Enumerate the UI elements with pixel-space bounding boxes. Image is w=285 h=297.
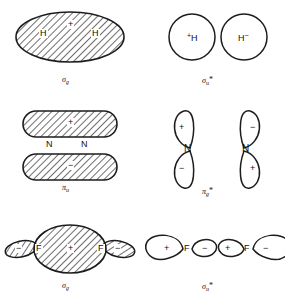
sign-plus-center: + — [67, 244, 74, 253]
sign-minus-right-top: − — [250, 123, 255, 132]
sign-plus-left-top: + — [179, 123, 184, 132]
atom-label-n-right: N — [81, 140, 88, 149]
atom-label-h-left: H — [191, 33, 198, 43]
atom-label-h-right: H — [91, 29, 100, 38]
sigma-u-star-h2-orbital-shape — [143, 0, 285, 75]
subscript-u: u — [66, 187, 69, 193]
sign-minus-left-lobe: − — [15, 244, 22, 253]
panel-sigma-u-star-h2: +H H− σu* — [143, 0, 285, 99]
sigma-g-h2-orbital-shape — [0, 0, 143, 75]
mo-diagram-figure: H H + σg +H H− σu* + − N N πu — [0, 0, 285, 297]
mo-label-sigma-g-h2: σg — [62, 76, 69, 85]
atom-group-h-cation: +H — [187, 32, 198, 43]
sign-minus-left-bottom: − — [179, 164, 184, 173]
star-glyph: * — [209, 75, 213, 84]
sign-plus-center: + — [67, 20, 74, 29]
mo-label-pi-g-star-n2: πg* — [202, 187, 213, 197]
sigma-g-f2-orbital-shape — [0, 198, 143, 278]
panel-sigma-g-f2: − − + F F σg — [0, 198, 143, 297]
subscript-g: g — [66, 285, 69, 291]
sign-minus-left-atom: − — [202, 244, 207, 253]
atom-label-n-left: N — [46, 140, 53, 149]
panel-sigma-u-star-f2: + − + − F F σu* — [143, 198, 285, 297]
atom-group-h-anion: H− — [238, 32, 249, 43]
atom-label-n-left: N — [184, 144, 191, 154]
sign-plus-right-atom: + — [225, 244, 230, 253]
sign-plus-right-bottom: + — [250, 164, 255, 173]
sign-minus-right: − — [245, 32, 249, 39]
subscript-g: g — [66, 79, 69, 85]
mo-label-sigma-g-f2: σg — [62, 282, 69, 291]
sigma-u-star-f2-orbital-shape — [143, 198, 285, 278]
atom-label-f-left: F — [184, 244, 190, 253]
sign-minus-right-atom: − — [263, 244, 268, 253]
panel-pi-u-n2: + − N N πu — [0, 99, 143, 198]
panel-sigma-g-h2: H H + σg — [0, 0, 143, 99]
atom-label-n-right: N — [242, 144, 249, 154]
atom-label-h-left: H — [39, 29, 48, 38]
sign-plus-left-atom: + — [164, 244, 169, 253]
mo-label-sigma-u-star-f2: σu* — [202, 282, 213, 292]
pi-g-star-n2-orbital-shape — [143, 99, 285, 184]
mo-label-sigma-u-star-h2: σu* — [202, 76, 213, 86]
atom-label-f-left: F — [35, 244, 43, 253]
star-glyph: * — [209, 186, 213, 195]
star-glyph: * — [209, 281, 213, 290]
sign-minus-right-lobe: − — [114, 244, 121, 253]
mo-label-pi-u-n2: πu — [62, 184, 69, 193]
sign-minus-bottom: − — [67, 161, 74, 170]
sign-plus-top: + — [67, 118, 74, 127]
atom-label-f-right: F — [97, 244, 105, 253]
atom-label-f-right: F — [244, 244, 250, 253]
panel-pi-g-star-n2: + − − + N N πg* — [143, 99, 285, 198]
